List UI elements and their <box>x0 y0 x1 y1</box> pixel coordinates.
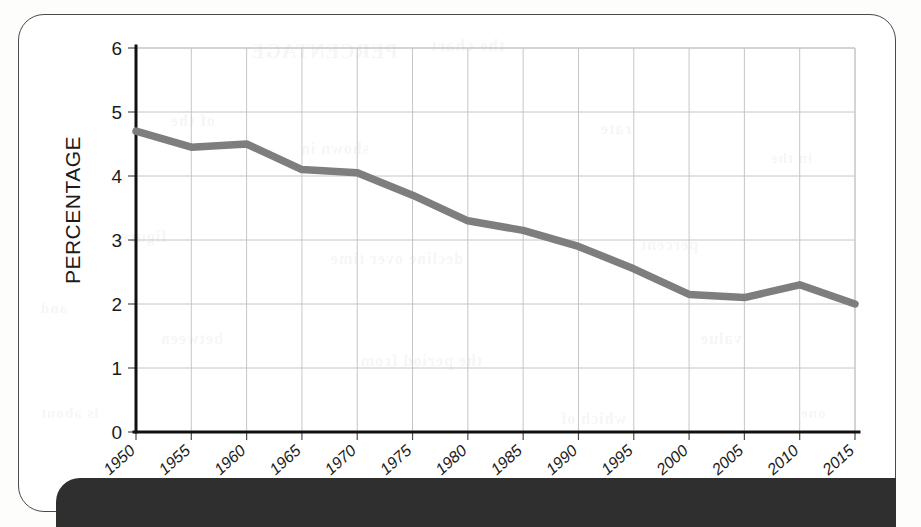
y-tick-label: 4 <box>111 166 122 187</box>
x-tick-label: 1980 <box>432 442 470 479</box>
y-tick-label: 2 <box>111 294 122 315</box>
x-tick-label: 2000 <box>653 442 692 479</box>
y-axis-tick-labels: 0123456 <box>111 38 122 443</box>
data-series-line <box>136 131 855 304</box>
page-canvas: PERCENTAGEthe chartof theshown inratein … <box>0 0 921 527</box>
x-tick-label: 1955 <box>155 442 193 479</box>
y-tick-label: 1 <box>111 358 122 379</box>
x-tick-label: 1990 <box>543 442 581 479</box>
footer-dark-bar <box>56 478 896 527</box>
x-tick-label: 1970 <box>321 442 359 479</box>
y-tick-label: 6 <box>111 38 122 59</box>
line-chart: 0123456 19501955196019651970197519801985… <box>0 0 921 527</box>
x-tick-label: 1960 <box>211 442 249 479</box>
x-tick-label: 1950 <box>100 442 138 479</box>
x-tick-label: 2015 <box>818 442 857 479</box>
x-tick-label: 2005 <box>708 442 747 479</box>
x-tick-label: 1985 <box>487 442 525 479</box>
y-tick-label: 3 <box>111 230 122 251</box>
x-tick-label: 1975 <box>377 442 415 479</box>
y-tick-label: 0 <box>111 422 122 443</box>
x-tick-label: 2010 <box>763 442 802 479</box>
x-tick-label: 1965 <box>266 442 304 479</box>
y-tick-label: 5 <box>111 102 122 123</box>
y-axis-title: PERCENTAGE <box>61 136 84 284</box>
horizontal-gridlines <box>136 48 855 368</box>
x-tick-label: 1995 <box>598 442 636 479</box>
x-axis-tick-labels: 1950195519601965197019751980198519901995… <box>100 442 857 479</box>
chart-svg: 0123456 19501955196019651970197519801985… <box>0 0 921 527</box>
